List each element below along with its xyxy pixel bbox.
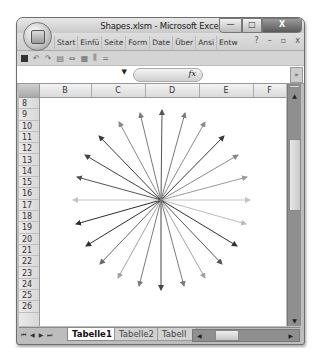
prev-sheet-icon[interactable]: ◀ [30, 329, 35, 340]
formula-input[interactable] [207, 68, 287, 80]
save-icon[interactable] [21, 55, 28, 62]
redo-icon[interactable]: ↷ [45, 54, 52, 63]
arrow-shape[interactable] [161, 177, 247, 200]
ribbon-tab-1[interactable]: Einfü [77, 36, 101, 49]
arrow-shape[interactable] [139, 200, 161, 286]
ribbon-tab-0[interactable]: Start [54, 36, 77, 49]
arrow-shape[interactable] [99, 136, 161, 200]
arrow-shape[interactable] [77, 177, 161, 200]
horizontal-scrollbar[interactable]: ◀ ▶ [192, 329, 300, 342]
help-icon[interactable]: ? [255, 36, 259, 45]
arrow-shape[interactable] [76, 200, 161, 224]
name-box[interactable]: ▼ [17, 68, 129, 80]
ribbon-tabs-bar: StartEinfüSeiteFormDateÜberAnsiEntw ? – … [17, 33, 304, 51]
arrow-shape[interactable] [161, 136, 224, 200]
horizontal-scroll-thumb[interactable] [215, 330, 239, 341]
arrow-shape[interactable] [161, 155, 238, 200]
ribbon-tab-2[interactable]: Seite [101, 36, 125, 49]
arrow-shape[interactable] [161, 110, 162, 200]
arrow-shape[interactable] [161, 122, 205, 200]
window-controls: — □ X [219, 18, 302, 33]
arrow-shape[interactable] [161, 200, 184, 286]
ribbon-tabs: StartEinfüSeiteFormDateÜberAnsiEntw [54, 36, 240, 49]
scroll-down-arrow-icon[interactable]: ▼ [288, 315, 301, 326]
sheet-tab-bar: ⏮ ◀ ▶ ⏭ Tabelle1 Tabelle2 Tabell ◀ ▶ [19, 327, 300, 341]
worksheet-grid[interactable]: BCDEF 8910111213141516171819202122232425… [19, 84, 286, 326]
insert-function-button[interactable]: fx [133, 68, 203, 82]
office-logo-icon [31, 30, 45, 44]
first-sheet-icon[interactable]: ⏮ [21, 329, 26, 340]
minimize-button[interactable]: — [219, 18, 242, 33]
sheet-icon[interactable]: ▦ [81, 54, 89, 63]
last-sheet-icon[interactable]: ⏭ [47, 329, 52, 340]
next-sheet-icon[interactable]: ▶ [39, 329, 44, 340]
ribbon-tab-4[interactable]: Date [149, 36, 172, 49]
arrow-shape[interactable] [161, 200, 246, 224]
workbook-restore-button[interactable]: ▫ [281, 36, 286, 45]
scroll-up-arrow-icon[interactable]: ▲ [288, 90, 301, 101]
arrow-shape[interactable] [161, 200, 237, 246]
ribbon-window-controls: ? – ▫ x [255, 36, 300, 45]
ribbon-tab-6[interactable]: Ansi [195, 36, 216, 49]
ribbon-tab-5[interactable]: Über [172, 36, 195, 49]
sheet-navigation: ⏮ ◀ ▶ ⏭ [21, 329, 52, 340]
maximize-button[interactable]: □ [242, 18, 262, 33]
sheet-tab-tabelle2[interactable]: Tabelle2 [114, 328, 162, 341]
chevron-down-icon[interactable]: ▼ [122, 68, 127, 76]
arrow-shape[interactable] [119, 122, 161, 200]
ribbon-tab-7[interactable]: Entw [216, 36, 240, 49]
expand-formula-bar-button[interactable]: » [290, 67, 303, 83]
arrow-shape[interactable] [140, 113, 161, 200]
close-button[interactable]: X [262, 18, 302, 33]
vertical-scroll-thumb[interactable] [289, 139, 301, 211]
fx-icon: fx [189, 69, 196, 78]
workbook-close-button[interactable]: x [295, 36, 300, 45]
sheet-tab-tabelle3[interactable]: Tabell [157, 328, 197, 341]
excel-window: Shapes.xlsm - Microsoft Excel — □ X Star… [16, 17, 305, 345]
chart-icon[interactable]: ⫼ [93, 53, 97, 63]
arrow-starburst-drawing[interactable] [19, 84, 286, 326]
scroll-left-arrow-icon[interactable]: ◀ [197, 330, 202, 341]
undo-icon[interactable]: ↶ [33, 54, 40, 63]
split-handle[interactable] [289, 85, 300, 88]
print-preview-icon[interactable]: ▤ [56, 54, 64, 63]
arrow-shape[interactable] [161, 113, 185, 200]
sheet-tab-tabelle1[interactable]: Tabelle1 [67, 328, 119, 341]
quick-access-toolbar: ↶ ↷ ▤ ⇔ ▦ ⫼ = [17, 51, 304, 65]
formula-bar: ▼ fx » [17, 66, 304, 84]
ribbon-tab-3[interactable]: Form [125, 36, 149, 49]
link-icon[interactable]: ⇔ [69, 54, 76, 63]
title-bar: Shapes.xlsm - Microsoft Excel — □ X [17, 18, 304, 33]
workbook-minimize-button[interactable]: – [268, 36, 272, 45]
customize-qat-button[interactable]: = [102, 54, 109, 63]
office-button[interactable] [23, 22, 52, 51]
scroll-right-arrow-icon[interactable]: ▶ [288, 330, 293, 341]
vertical-scrollbar[interactable]: ▲ ▼ [287, 84, 301, 326]
arrow-shape[interactable] [85, 155, 161, 200]
